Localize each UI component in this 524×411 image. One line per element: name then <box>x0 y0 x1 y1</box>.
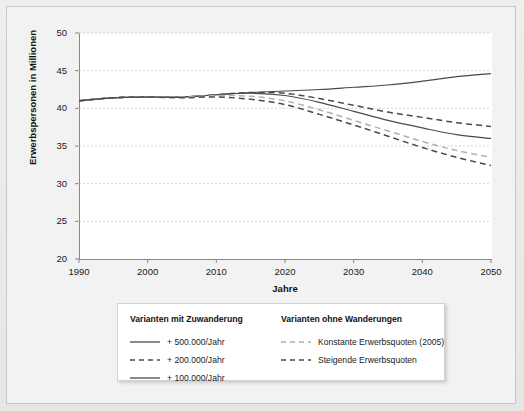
x-tick-label: 2020 <box>265 267 305 277</box>
x-tick-label: 2030 <box>334 267 374 277</box>
legend-entry[interactable]: Steigende Erwerbsquoten <box>281 351 439 369</box>
legend-entry-label: + 100.000/Jahr <box>167 373 225 383</box>
legend-entry[interactable]: + 500.000/Jahr <box>130 333 280 351</box>
x-tick-label: 1990 <box>59 267 99 277</box>
x-tick-label: 2050 <box>471 267 511 277</box>
legend-entry[interactable]: + 100.000/Jahr <box>130 369 280 387</box>
figure-background: 50454035302520 1990200020102020203020402… <box>0 0 524 411</box>
y-tick-label: 20 <box>41 254 67 264</box>
series-lines <box>79 74 491 166</box>
legend-line-swatch <box>130 337 160 347</box>
y-tick-label: 30 <box>41 179 67 189</box>
legend-entry-label: Konstante Erwerbsquoten (2005) <box>318 337 444 347</box>
y-tick-label: 50 <box>41 28 67 38</box>
series-line-4 <box>79 95 491 157</box>
y-tick-label: 45 <box>41 66 67 76</box>
legend-entry-list: + 500.000/Jahr+ 200.000/Jahr+ 100.000/Ja… <box>130 333 280 387</box>
legend-line-swatch <box>281 355 311 365</box>
y-tick-label: 25 <box>41 216 67 226</box>
legend-line-swatch <box>281 337 311 347</box>
series-line-5 <box>79 97 491 166</box>
legend-group-ohne-wanderungen: Varianten ohne Wanderungen Konstante Erw… <box>281 314 439 369</box>
legend-entry-label: + 200.000/Jahr <box>167 355 225 365</box>
y-tick-label: 40 <box>41 103 67 113</box>
legend-group-zuwanderung: Varianten mit Zuwanderung + 500.000/Jahr… <box>130 314 280 387</box>
x-tick-label: 2040 <box>402 267 442 277</box>
legend-entry-label: + 500.000/Jahr <box>167 337 225 347</box>
legend-line-swatch <box>130 373 160 383</box>
x-axis-title: Jahre <box>79 283 491 294</box>
legend-group-title: Varianten ohne Wanderungen <box>281 314 439 324</box>
series-line-3 <box>79 93 491 138</box>
legend-entry-list: Konstante Erwerbsquoten (2005)Steigende … <box>281 333 439 369</box>
gridlines <box>79 33 491 221</box>
x-tick-label: 2010 <box>196 267 236 277</box>
x-tick-label: 2000 <box>128 267 168 277</box>
legend-entry-label: Steigende Erwerbsquoten <box>318 355 417 365</box>
legend-line-swatch <box>130 355 160 365</box>
y-tick-label: 35 <box>41 141 67 151</box>
chart-legend: Varianten mit Zuwanderung + 500.000/Jahr… <box>117 303 445 381</box>
legend-group-title: Varianten mit Zuwanderung <box>130 314 280 324</box>
axis-ticks <box>75 33 491 263</box>
legend-entry[interactable]: + 200.000/Jahr <box>130 351 280 369</box>
legend-entry[interactable]: Konstante Erwerbsquoten (2005) <box>281 333 439 351</box>
y-axis-title: Erwerbspersonen in Millionen <box>27 3 38 193</box>
